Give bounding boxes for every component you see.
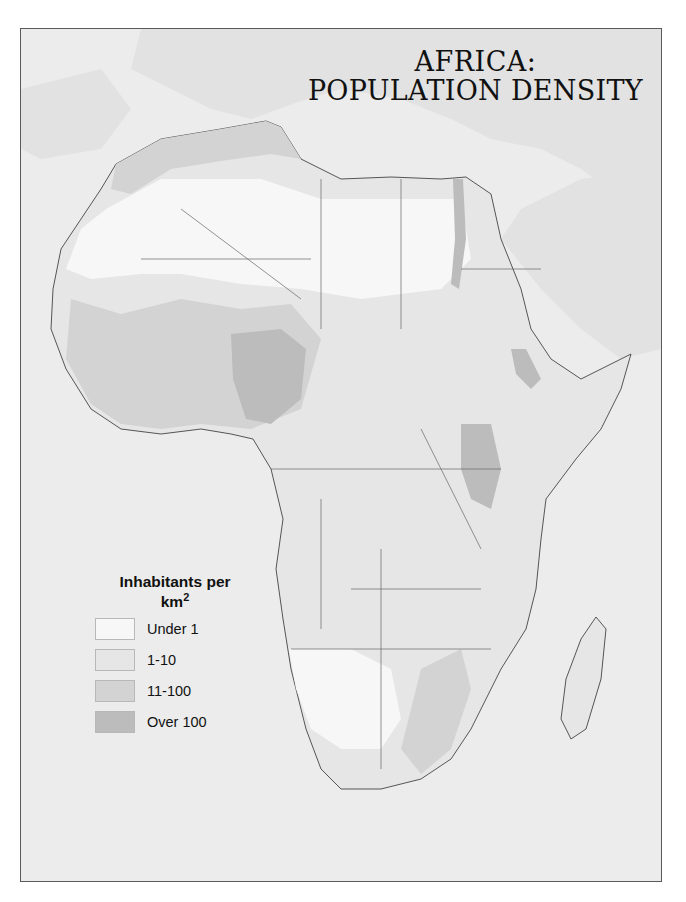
legend-label: 1-10	[147, 652, 176, 668]
legend: Inhabitants per km2 Under 1 1-10 11-100 …	[95, 573, 265, 735]
legend-item-11-100: 11-100	[95, 678, 265, 704]
legend-label: Over 100	[147, 714, 207, 730]
legend-item-1-10: 1-10	[95, 647, 265, 673]
madagascar	[561, 617, 606, 739]
map-title: AFRICA: POPULATION DENSITY	[308, 47, 643, 105]
legend-swatch-1-10	[95, 649, 135, 671]
legend-unit-superscript: 2	[183, 591, 189, 603]
legend-label: Under 1	[147, 621, 199, 637]
title-line-1: AFRICA:	[308, 47, 643, 76]
legend-item-over-100: Over 100	[95, 709, 265, 735]
legend-title-text: Inhabitants per	[119, 573, 230, 590]
africa-map	[21, 29, 661, 881]
legend-unit: km	[161, 593, 183, 610]
legend-swatch-under-1	[95, 618, 135, 640]
legend-label: 11-100	[147, 683, 191, 699]
legend-swatch-over-100	[95, 711, 135, 733]
title-line-2: POPULATION DENSITY	[308, 76, 643, 105]
legend-title: Inhabitants per km2	[95, 573, 255, 611]
map-frame: AFRICA: POPULATION DENSITY Inhabitants p…	[20, 28, 662, 882]
legend-swatch-11-100	[95, 680, 135, 702]
legend-item-under-1: Under 1	[95, 616, 265, 642]
